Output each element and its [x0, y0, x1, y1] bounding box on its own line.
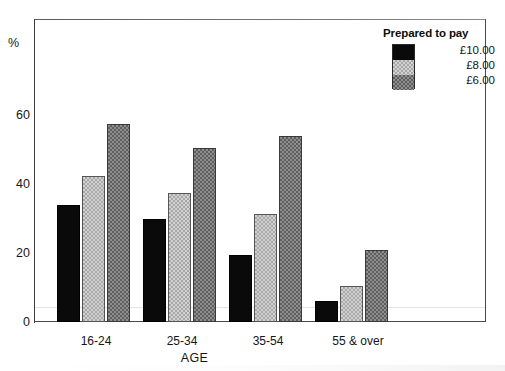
legend: Prepared to pay £10.00 £8.00 £6.00 [383, 27, 495, 89]
bar-25-34-8gbp[interactable] [168, 193, 191, 322]
legend-label-6gbp: £6.00 [423, 73, 495, 88]
y-tick-label-0: 0 [4, 316, 30, 329]
bar-55-over-6gbp[interactable] [365, 250, 388, 322]
legend-body: £10.00 £8.00 £6.00 [383, 44, 495, 89]
x-tick-label-35-54: 35-54 [229, 334, 307, 348]
legend-keys: £10.00 £8.00 £6.00 [423, 43, 495, 88]
x-axis-title-text: AGE [181, 351, 208, 365]
bar-16-24-8gbp[interactable] [82, 176, 105, 322]
y-tick-label-40: 40 [4, 178, 30, 191]
x-tick-label-25-34: 25-34 [143, 334, 221, 348]
bar-35-54-10gbp[interactable] [229, 255, 252, 322]
legend-swatch-stack [392, 44, 415, 89]
x-axis-title: AGE [0, 351, 505, 365]
legend-label-10gbp: £10.00 [423, 43, 495, 58]
legend-swatch-6gbp [393, 75, 414, 90]
bar-group-55-over [315, 20, 393, 322]
legend-title: Prepared to pay [383, 27, 495, 39]
bar-16-24-10gbp[interactable] [57, 205, 80, 322]
x-tick-label-16-24: 16-24 [57, 334, 135, 348]
bar-group-25-34 [143, 20, 221, 322]
bar-55-over-10gbp[interactable] [315, 301, 338, 322]
bar-16-24-6gbp[interactable] [107, 124, 130, 322]
bar-group-35-54 [229, 20, 307, 322]
y-tick-label-60: 60 [4, 109, 30, 122]
legend-swatch-8gbp [393, 60, 414, 75]
bar-55-over-8gbp[interactable] [340, 286, 363, 322]
bar-group-16-24 [57, 20, 135, 322]
bar-35-54-8gbp[interactable] [254, 214, 277, 322]
y-axis-label: % [8, 36, 19, 50]
legend-swatch-10gbp [393, 45, 414, 60]
legend-label-8gbp: £8.00 [423, 58, 495, 73]
bar-25-34-10gbp[interactable] [143, 219, 166, 322]
y-tick-label-20: 20 [4, 247, 30, 260]
bar-35-54-6gbp[interactable] [279, 136, 302, 322]
bar-chart: % 0 20 40 60 16-24 25-34 35-54 55 & o [0, 0, 505, 371]
x-tick-label-55-over: 55 & over [313, 334, 403, 348]
scan-artifact [0, 365, 505, 371]
bar-25-34-6gbp[interactable] [193, 148, 216, 322]
